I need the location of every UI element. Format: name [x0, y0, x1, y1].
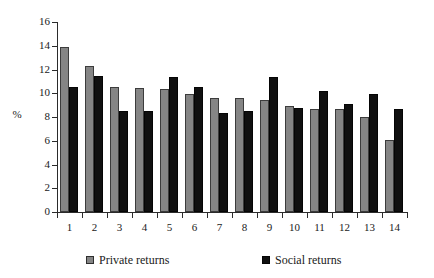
x-tick-label-10: 10: [282, 221, 308, 233]
legend-label-private: Private returns: [99, 253, 169, 267]
bar-private-3: [110, 87, 119, 212]
bar-private-1: [60, 47, 69, 212]
x-tick-mark: [332, 213, 333, 218]
legend-label-social: Social returns: [275, 253, 341, 267]
bar-private-9: [260, 100, 269, 212]
x-tick-label-13: 13: [357, 221, 383, 233]
bar-social-3: [119, 111, 128, 212]
y-tick-label-wrap: 8: [0, 111, 50, 122]
y-tick-label: 10: [4, 87, 50, 98]
bar-private-14: [385, 140, 394, 212]
bar-private-5: [160, 89, 169, 213]
bar-private-7: [210, 98, 219, 212]
bar-social-4: [144, 111, 153, 212]
x-tick-mark: [282, 213, 283, 218]
y-tick-label-wrap: 2: [0, 182, 50, 193]
y-tick-label: 8: [4, 111, 50, 122]
bar-private-8: [235, 98, 244, 212]
bar-social-2: [94, 76, 103, 212]
x-tick-mark: [207, 213, 208, 218]
bar-social-1: [69, 87, 78, 212]
x-tick-label-4: 4: [132, 221, 158, 233]
bar-private-2: [85, 66, 94, 212]
x-tick-mark: [232, 213, 233, 218]
y-tick-label-wrap: 4: [0, 159, 50, 170]
y-tick-label-wrap: 0: [0, 206, 50, 217]
x-tick-label-9: 9: [257, 221, 283, 233]
x-tick-mark: [82, 213, 83, 218]
x-tick-mark: [132, 213, 133, 218]
y-tick-label: 4: [4, 159, 50, 170]
x-tick-label-7: 7: [207, 221, 233, 233]
chart-legend: Private returns Social returns: [0, 251, 434, 273]
bar-private-4: [135, 88, 144, 212]
y-tick-label-wrap: 16: [0, 16, 50, 27]
x-tick-label-1: 1: [57, 221, 83, 233]
bar-social-13: [369, 94, 378, 212]
x-tick-mark: [357, 213, 358, 218]
bar-social-11: [319, 91, 328, 212]
bar-social-9: [269, 77, 278, 212]
bar-social-7: [219, 113, 228, 212]
bar-social-5: [169, 77, 178, 212]
y-tick-label: 12: [4, 64, 50, 75]
x-tick-label-2: 2: [82, 221, 108, 233]
x-tick-mark: [307, 213, 308, 218]
y-tick-label: 6: [4, 135, 50, 146]
x-tick-label-5: 5: [157, 221, 183, 233]
x-tick-mark: [382, 213, 383, 218]
bar-social-12: [344, 104, 353, 212]
legend-swatch-private-icon: [86, 256, 94, 264]
x-tick-mark: [57, 213, 58, 218]
x-tick-label-6: 6: [182, 221, 208, 233]
bar-social-10: [294, 108, 303, 212]
x-tick-mark: [257, 213, 258, 218]
bar-private-10: [285, 106, 294, 212]
bar-private-12: [335, 109, 344, 212]
bar-social-8: [244, 111, 253, 212]
y-tick-label: 2: [4, 182, 50, 193]
x-tick-label-8: 8: [232, 221, 258, 233]
bar-chart: % 1614121086420 1234567891011121314 Priv…: [0, 0, 434, 278]
x-tick-label-3: 3: [107, 221, 133, 233]
x-tick-label-14: 14: [382, 221, 408, 233]
y-tick-label-wrap: 6: [0, 135, 50, 146]
plot-area: [57, 22, 407, 212]
bar-social-6: [194, 87, 203, 212]
x-tick-mark: [182, 213, 183, 218]
y-tick-label-wrap: 14: [0, 40, 50, 51]
bar-social-14: [394, 109, 403, 212]
bar-private-13: [360, 117, 369, 212]
legend-item-social-returns: Social returns: [262, 251, 341, 269]
legend-swatch-social-icon: [262, 256, 270, 264]
y-tick-label: 16: [4, 16, 50, 27]
x-tick-mark: [107, 213, 108, 218]
x-tick-label-11: 11: [307, 221, 333, 233]
bar-private-6: [185, 94, 194, 212]
legend-item-private-returns: Private returns: [86, 251, 169, 269]
y-tick-label: 0: [4, 206, 50, 217]
y-tick-label: 14: [4, 40, 50, 51]
y-tick-label-wrap: 10: [0, 87, 50, 98]
x-tick-mark: [407, 213, 408, 218]
bar-private-11: [310, 109, 319, 212]
x-tick-mark: [157, 213, 158, 218]
y-tick-label-wrap: 12: [0, 64, 50, 75]
x-tick-label-12: 12: [332, 221, 358, 233]
